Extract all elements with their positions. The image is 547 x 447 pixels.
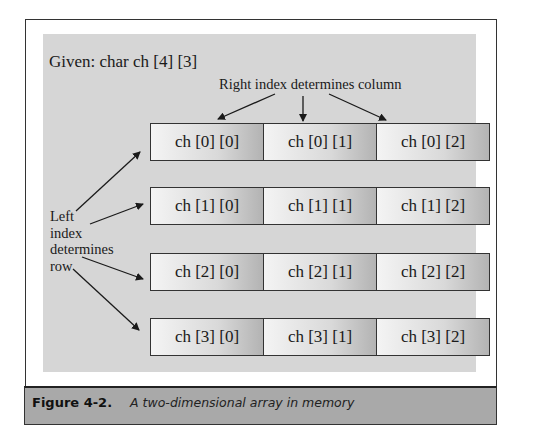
figure-caption-bar: Figure 4-2. A two-dimensional array in m…: [24, 386, 497, 425]
column-arrows: [218, 94, 386, 121]
figure-number: Figure 4-2.: [32, 395, 112, 410]
arrow-icon: [76, 152, 140, 211]
arrow-icon: [82, 257, 143, 279]
figure-title: A two-dimensional array in memory: [130, 395, 354, 410]
arrow-icon: [73, 269, 139, 330]
row-arrows: [73, 152, 143, 330]
arrow-icon: [90, 204, 143, 224]
arrow-icon: [218, 94, 275, 119]
arrow-icon: [329, 94, 386, 120]
arrows-layer: [0, 0, 547, 447]
